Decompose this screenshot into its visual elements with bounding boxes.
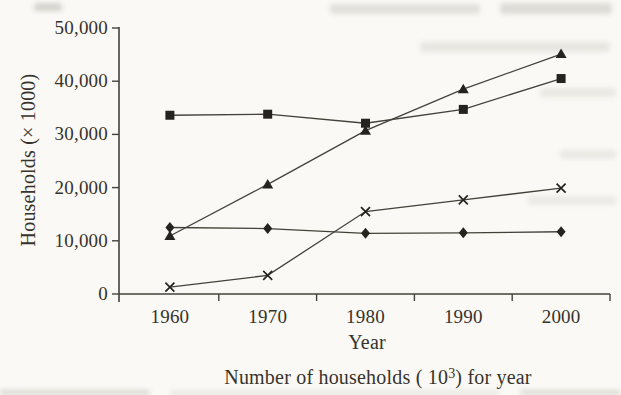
triangle-marker bbox=[556, 49, 567, 59]
square-marker bbox=[459, 105, 468, 114]
caption-suffix: ) for year bbox=[455, 366, 531, 388]
diamond-marker bbox=[361, 228, 370, 239]
square-series-line bbox=[170, 79, 561, 124]
textbook-figure-page: Households (× 1000) 50,00040,00030,00020… bbox=[0, 0, 621, 395]
diamond-marker bbox=[459, 227, 468, 238]
x-axis-tick-label: 2000 bbox=[529, 306, 593, 328]
caption-prefix: Number of households ( 10 bbox=[224, 366, 448, 388]
x-axis-title: Year bbox=[335, 331, 399, 354]
x-axis-tick-label: 1980 bbox=[334, 306, 398, 328]
y-axis-tick-label: 0 bbox=[0, 283, 108, 305]
diamond-series bbox=[165, 222, 565, 239]
data-series bbox=[164, 49, 566, 292]
square-marker bbox=[263, 110, 272, 119]
square-marker bbox=[361, 119, 370, 128]
y-axis-tick-label: 10,000 bbox=[0, 230, 108, 252]
square-series bbox=[165, 74, 565, 128]
diamond-marker bbox=[263, 223, 272, 234]
axes bbox=[112, 27, 610, 302]
caption-superscript: 3 bbox=[448, 366, 455, 381]
diamond-marker bbox=[557, 226, 566, 237]
square-marker bbox=[165, 111, 174, 120]
figure-caption: Number of households ( 103) for year bbox=[224, 366, 531, 389]
triangle-series-line bbox=[170, 54, 561, 236]
y-axis-tick-label: 30,000 bbox=[0, 123, 108, 145]
y-axis-tick-label: 50,000 bbox=[0, 17, 108, 39]
y-axis-tick-label: 20,000 bbox=[0, 177, 108, 199]
x-axis-tick-label: 1970 bbox=[236, 306, 300, 328]
diamond-marker bbox=[165, 222, 174, 233]
triangle-marker bbox=[262, 179, 273, 189]
x-axis-tick-label: 1990 bbox=[431, 306, 495, 328]
y-axis-tick-label: 40,000 bbox=[0, 70, 108, 92]
square-marker bbox=[557, 74, 566, 83]
x-axis-tick-label: 1960 bbox=[138, 306, 202, 328]
